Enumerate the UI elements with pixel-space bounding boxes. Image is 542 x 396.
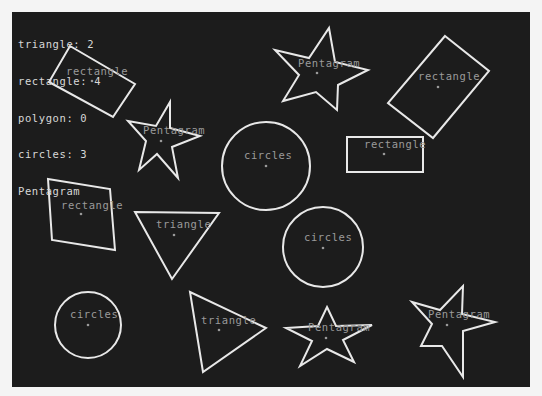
pentagram-shape: Pentagram [128, 102, 205, 178]
circle-shape: circles [55, 292, 121, 358]
centroid-dot [265, 165, 268, 168]
triangle-shape: triangle [135, 212, 219, 279]
centroid-dot [173, 234, 176, 237]
shape-label: Pentagram [428, 308, 490, 320]
pentagram-shape: Pentagram [412, 286, 495, 377]
pentagram-outline [412, 286, 495, 377]
shape-label: triangle [156, 218, 211, 230]
pentagram-shape: Pentagram [275, 28, 368, 110]
shape-label: rectangle [364, 138, 426, 150]
centroid-dot [316, 72, 319, 75]
pentagram-outline [275, 28, 368, 110]
shape-label: Pentagram [308, 321, 370, 333]
shape-label: Pentagram [143, 124, 205, 136]
legend-line-pentagram: Pentagram [18, 185, 101, 197]
pentagram-outline [286, 307, 372, 366]
shape-label: triangle [201, 314, 256, 326]
centroid-dot [437, 86, 440, 89]
centroid-dot [322, 247, 325, 250]
shape-label: Pentagram [298, 57, 360, 69]
legend-line-polygon: polygon: 0 [18, 112, 101, 124]
centroid-dot [325, 337, 328, 340]
legend-line-triangle: triangle: 2 [18, 38, 101, 50]
rectangle-shape: rectangle [388, 36, 489, 138]
legend-line-circles: circles: 3 [18, 148, 101, 160]
rectangle-shape: rectangle [347, 137, 426, 172]
centroid-dot [383, 153, 386, 156]
triangle-shape: triangle [190, 292, 266, 372]
shape-label: circles [70, 308, 118, 320]
centroid-dot [218, 329, 221, 332]
centroid-dot [87, 324, 90, 327]
circle-shape: circles [222, 122, 310, 210]
shape-count-legend: triangle: 2 rectangle: 4 polygon: 0 circ… [18, 14, 101, 209]
triangle-outline [190, 292, 266, 372]
shape-label: circles [304, 231, 352, 243]
shape-label: rectangle [418, 70, 480, 82]
centroid-dot [446, 324, 449, 327]
centroid-dot [80, 213, 83, 216]
legend-line-rectangle: rectangle: 4 [18, 75, 101, 87]
centroid-dot [160, 140, 163, 143]
circle-shape: circles [283, 207, 363, 287]
pentagram-shape: Pentagram [286, 307, 372, 366]
shape-label: circles [244, 149, 292, 161]
pentagram-outline [128, 102, 200, 178]
